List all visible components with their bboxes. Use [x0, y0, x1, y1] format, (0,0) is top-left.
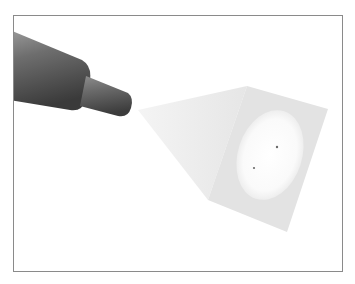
illustration [0, 0, 355, 284]
spot-mark [253, 167, 255, 169]
emitter-body [10, 30, 90, 110]
spot-mark [276, 146, 278, 148]
emitter-nozzle [80, 76, 132, 116]
